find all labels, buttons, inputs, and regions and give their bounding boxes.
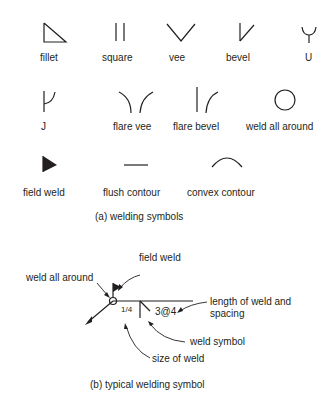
symbol-label-j: J <box>41 121 46 133</box>
vee-symbol-icon <box>167 24 195 41</box>
caption-welding-symbols: (a) welding symbols <box>95 211 183 223</box>
symbol-label-convex-contour: convex contour <box>187 187 255 199</box>
symbol-label-vee: vee <box>169 52 185 64</box>
flare-bevel-symbol-icon <box>197 87 218 113</box>
symbol-label-square: square <box>102 52 133 64</box>
u-symbol-icon <box>302 27 316 43</box>
j-symbol-icon <box>44 91 55 112</box>
fillet-symbol-icon <box>44 23 66 42</box>
value-size-of-weld: 1/4 <box>121 304 132 316</box>
symbol-label-flare-bevel: flare bevel <box>173 121 219 133</box>
symbol-label-flush-contour: flush contour <box>103 187 160 199</box>
symbol-label-field-weld: field weld <box>23 187 65 199</box>
typical-welding-symbol <box>85 275 207 358</box>
symbol-label-flare-vee: flare vee <box>113 121 151 133</box>
annotation-field-weld: field weld <box>139 252 181 264</box>
flare-vee-symbol-icon <box>119 92 153 113</box>
annotation-size-of-weld: size of weld <box>152 353 204 365</box>
annotation-weld-symbol: weld symbol <box>190 336 245 348</box>
symbol-label-bevel: bevel <box>226 52 250 64</box>
symbol-label-weld-all-around: weld all around <box>246 121 313 133</box>
symbol-label-fillet: fillet <box>40 52 58 64</box>
annotation-length-line2: spacing <box>210 308 244 320</box>
bevel-symbol-icon <box>240 23 254 41</box>
field-weld-symbol-icon <box>43 156 57 172</box>
square-symbol-icon <box>116 23 124 41</box>
value-length-spacing: 3@4 <box>155 306 176 318</box>
convex-contour-symbol-icon <box>212 158 242 167</box>
caption-typical-welding-symbol: (b) typical welding symbol <box>90 379 205 391</box>
weld-all-around-symbol-icon <box>275 90 295 110</box>
symbol-label-u: U <box>305 52 312 64</box>
annotation-weld-all-around: weld all around <box>26 272 93 284</box>
annotation-length-line1: length of weld and <box>210 296 291 308</box>
